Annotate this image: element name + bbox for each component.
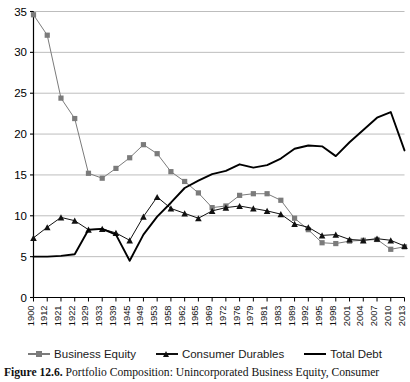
x-axis-tick-label: 1992 bbox=[300, 306, 310, 327]
x-axis-tick-label: 1912 bbox=[39, 306, 49, 327]
data-point-marker bbox=[278, 198, 283, 203]
data-point-marker bbox=[237, 193, 242, 198]
x-axis-tick-label: 2013 bbox=[397, 306, 407, 327]
y-axis-tick-label: 5 bbox=[21, 251, 27, 263]
x-axis-tick-label: 1933 bbox=[94, 306, 104, 327]
y-axis-tick-label: 25 bbox=[14, 87, 27, 99]
x-axis-tick-label: 1921 bbox=[53, 306, 63, 327]
x-axis-tick-label: 1949 bbox=[135, 306, 145, 327]
y-axis-tick-label: 20 bbox=[14, 128, 27, 140]
figure-caption-text: Portfolio Composition: Unincorporated Bu… bbox=[63, 366, 379, 379]
x-axis-tick-label: 1900 bbox=[26, 306, 36, 327]
x-axis-tick-label: 1929 bbox=[80, 306, 90, 327]
x-axis-tick-label: 1981 bbox=[259, 306, 269, 327]
y-axis-tick-label: 35 bbox=[14, 6, 27, 18]
legend-label-total-debt: Total Debt bbox=[330, 348, 382, 360]
data-point-marker bbox=[113, 166, 118, 171]
x-axis-tick-label: 1922 bbox=[67, 306, 77, 327]
x-axis-tick-label: 2004 bbox=[355, 306, 365, 327]
x-axis-tick-label: 2001 bbox=[342, 306, 352, 327]
figure-caption: Figure 12.6. Portfolio Composition: Unin… bbox=[4, 366, 408, 379]
data-point-marker bbox=[264, 191, 269, 196]
y-axis-tick-label: 10 bbox=[14, 210, 27, 222]
x-axis-tick-label: 2010 bbox=[383, 306, 393, 327]
x-axis-tick-label: 1972 bbox=[218, 306, 228, 327]
x-axis-tick-label: 1965 bbox=[190, 306, 200, 327]
data-point-marker bbox=[71, 218, 78, 224]
series-consumer-durables bbox=[30, 194, 408, 249]
data-point-marker bbox=[333, 241, 338, 246]
legend-item-business-equity: Business Equity bbox=[28, 348, 136, 360]
data-point-marker bbox=[127, 155, 132, 160]
data-point-marker bbox=[278, 211, 285, 217]
data-point-marker bbox=[140, 214, 147, 220]
x-axis-tick-label: 1969 bbox=[204, 306, 214, 327]
data-point-marker bbox=[58, 96, 63, 101]
legend-label-consumer-durables: Consumer Durables bbox=[182, 348, 284, 360]
y-axis-tick-label: 0 bbox=[21, 292, 27, 304]
x-axis-tick-label: 2007 bbox=[369, 306, 379, 327]
legend-item-total-debt: Total Debt bbox=[304, 348, 382, 360]
figure-container: 05101520253035 1900191219211922192919331… bbox=[0, 0, 410, 382]
gridlines-group bbox=[34, 12, 405, 257]
legend-label-business-equity: Business Equity bbox=[54, 348, 136, 360]
chart-legend: Business Equity Consumer Durables Total … bbox=[0, 344, 410, 364]
data-point-marker bbox=[251, 191, 256, 196]
y-axis-tick-label: 30 bbox=[14, 46, 27, 58]
y-axis-ticks-group: 05101520253035 bbox=[14, 6, 33, 304]
figure-caption-label: Figure 12.6. bbox=[4, 366, 63, 379]
data-point-marker bbox=[100, 176, 105, 181]
x-axis-labels-group: 1900191219211922192919331939194519491953… bbox=[26, 306, 407, 327]
x-axis-tick-label: 1945 bbox=[122, 306, 132, 327]
x-axis-tick-label: 1958 bbox=[163, 306, 173, 327]
series-line bbox=[34, 15, 405, 250]
legend-triangle-marker-icon bbox=[156, 349, 178, 359]
chart-plot-area: 05101520253035 1900191219211922192919331… bbox=[0, 0, 410, 340]
line-chart-svg: 05101520253035 1900191219211922192919331… bbox=[0, 0, 410, 340]
x-axis-tick-label: 1939 bbox=[108, 306, 118, 327]
data-point-marker bbox=[319, 240, 324, 245]
data-point-marker bbox=[155, 151, 160, 156]
data-point-marker bbox=[292, 216, 297, 221]
data-point-marker bbox=[388, 247, 393, 252]
data-point-marker bbox=[72, 116, 77, 121]
x-axis-tick-label: 1962 bbox=[177, 306, 187, 327]
data-point-marker bbox=[154, 194, 161, 200]
legend-square-marker-icon bbox=[28, 349, 50, 359]
x-axis-tick-label: 1983 bbox=[273, 306, 283, 327]
x-axis-tick-label: 1979 bbox=[245, 306, 255, 327]
data-point-marker bbox=[182, 179, 187, 184]
x-axis-tick-label: 1995 bbox=[314, 306, 324, 327]
data-point-marker bbox=[168, 169, 173, 174]
data-point-marker bbox=[45, 33, 50, 38]
x-axis-tick-label: 1976 bbox=[232, 306, 242, 327]
data-point-marker bbox=[141, 142, 146, 147]
data-point-marker bbox=[58, 214, 65, 220]
legend-item-consumer-durables: Consumer Durables bbox=[156, 348, 284, 360]
data-point-marker bbox=[196, 190, 201, 195]
legend-line-marker-icon bbox=[304, 349, 326, 359]
x-axis-tick-label: 1953 bbox=[149, 306, 159, 327]
data-point-marker bbox=[126, 237, 133, 243]
x-axis-tick-label: 1989 bbox=[287, 306, 297, 327]
data-point-marker bbox=[181, 210, 188, 216]
data-point-marker bbox=[86, 171, 91, 176]
y-axis-tick-label: 15 bbox=[14, 169, 27, 181]
data-series-group bbox=[30, 12, 408, 261]
data-point-marker bbox=[31, 12, 36, 17]
x-axis-tick-label: 1998 bbox=[328, 306, 338, 327]
